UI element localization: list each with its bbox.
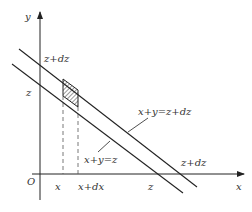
label-x-plus-y-equals-z: x+y=z [84,154,118,165]
leader-lower [98,141,110,152]
diagram-canvas: y x O z+dz z x x+dx z z+dz x+y=z+dz x+y=… [0,0,252,212]
x-tick-x: x [55,181,61,192]
x-tick-x-plus-dx: x+dx [78,181,104,192]
x-axis-label: x [236,181,242,192]
label-x-plus-y-equals-z-plus-dz: x+y=z+dz [138,106,192,117]
diagram-svg: y x O z+dz z x x+dx z z+dz x+y=z+dz x+y=… [0,0,252,212]
y-axis-label: y [24,11,31,22]
y-tick-z: z [25,87,32,98]
x-tick-z: z [147,181,154,192]
leader-upper [128,118,148,132]
line-x-plus-y-equals-z-plus-dz [19,49,197,187]
y-tick-z-plus-dz: z+dz [43,53,70,64]
origin-label: O [27,176,35,187]
x-tick-z-plus-dz: z+dz [180,157,207,168]
